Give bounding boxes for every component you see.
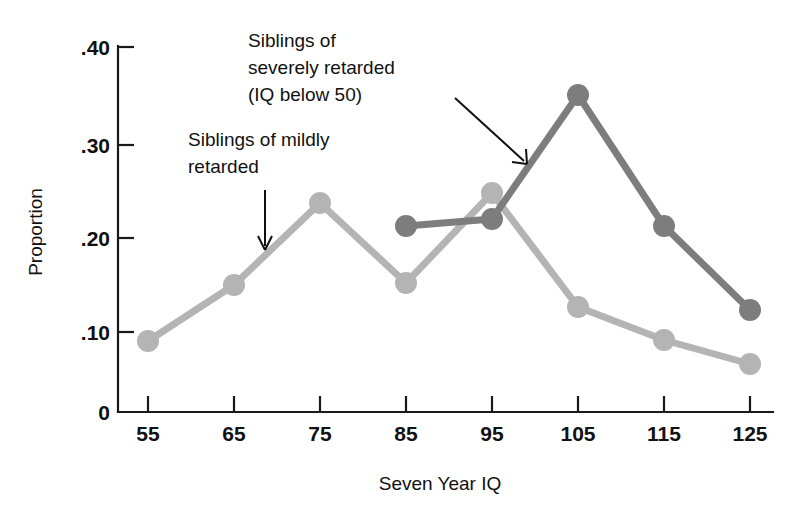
line-chart: .40 .30 .20 .10 0 55 65 75 85 95 105 115…	[0, 0, 807, 507]
chart-axes	[118, 46, 773, 412]
x-tick-label-55: 55	[136, 422, 160, 445]
x-tick-label-75: 75	[308, 422, 332, 445]
x-tick-label-125: 125	[732, 422, 767, 445]
annotation-mildly-retarded-line-2: retarded	[188, 156, 259, 177]
data-point	[739, 299, 761, 321]
data-point	[739, 353, 761, 375]
data-point	[567, 84, 589, 106]
x-axis-ticks	[148, 396, 750, 412]
annotation-severely-retarded-line-1: Siblings of	[248, 30, 336, 51]
series-severely-retarded	[395, 84, 761, 321]
y-axis-ticks	[118, 47, 134, 332]
annotation-severely-retarded-line-3: (IQ below 50)	[248, 84, 362, 105]
data-point	[309, 192, 331, 214]
y-tick-label-20: .20	[81, 227, 110, 250]
x-tick-label-115: 115	[647, 422, 681, 445]
annotation-severely-retarded-line-2: severely retarded	[248, 57, 395, 78]
series-mildly-retarded	[137, 182, 761, 375]
data-point	[395, 215, 417, 237]
data-point	[653, 215, 675, 237]
x-tick-label-85: 85	[394, 422, 418, 445]
y-tick-label-0: 0	[98, 401, 110, 424]
y-tick-label-30: .30	[81, 134, 110, 157]
annotation-mildly-retarded-line-1: Siblings of mildly	[188, 129, 330, 150]
data-point	[395, 272, 417, 294]
x-tick-label-105: 105	[560, 422, 595, 445]
data-point	[567, 296, 589, 318]
data-point	[653, 329, 675, 351]
x-axis-tick-labels: 55 65 75 85 95 105 115 125	[136, 422, 768, 445]
annotation-mildly-retarded: Siblings of mildly retarded	[188, 129, 330, 250]
y-tick-label-40: .40	[81, 36, 110, 59]
y-tick-label-10: .10	[81, 321, 110, 344]
y-axis-title: Proportion	[25, 188, 46, 276]
x-tick-label-95: 95	[480, 422, 504, 445]
x-axis-title: Seven Year IQ	[379, 473, 502, 494]
data-point	[481, 208, 503, 230]
series-severely-retarded-line	[406, 95, 750, 310]
y-axis-tick-labels: .40 .30 .20 .10 0	[81, 36, 110, 424]
x-tick-label-65: 65	[222, 422, 246, 445]
annotation-severely-retarded-arrow-shaft	[455, 98, 524, 161]
data-point	[223, 274, 245, 296]
data-point	[137, 330, 159, 352]
chart-page: .40 .30 .20 .10 0 55 65 75 85 95 105 115…	[0, 0, 807, 507]
data-point	[481, 182, 503, 204]
